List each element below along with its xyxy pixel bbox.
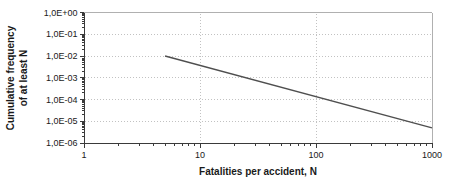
y-tick-label: 1,0E-01 <box>46 29 78 39</box>
x-tick-label: 100 <box>308 150 323 160</box>
x-tick-label: 1 <box>81 150 86 160</box>
x-axis-title: Fatalities per accident, N <box>84 166 432 177</box>
x-tick-label: 1000 <box>422 150 442 160</box>
y-tick-label: 1,0E-02 <box>46 51 78 61</box>
y-tick-label: 1,0E+00 <box>44 8 78 18</box>
y-axis-title: Cumulative frequency of at least N <box>4 12 30 144</box>
y-tick-label: 1,0E-03 <box>46 73 78 83</box>
y-tick-label: 1,0E-05 <box>46 116 78 126</box>
y-tick-label: 1,0E-06 <box>46 138 78 148</box>
y-tick-label: 1,0E-04 <box>46 95 78 105</box>
y-axis-title-line2: of at least N <box>17 12 30 144</box>
x-tick-label: 10 <box>195 150 205 160</box>
plot-area: 11010010001,0E+001,0E-011,0E-021,0E-031,… <box>0 0 460 184</box>
fn-curve-line <box>165 56 432 128</box>
fn-curve-chart: 11010010001,0E+001,0E-011,0E-021,0E-031,… <box>0 0 460 184</box>
y-axis-title-line1: Cumulative frequency <box>4 12 17 144</box>
